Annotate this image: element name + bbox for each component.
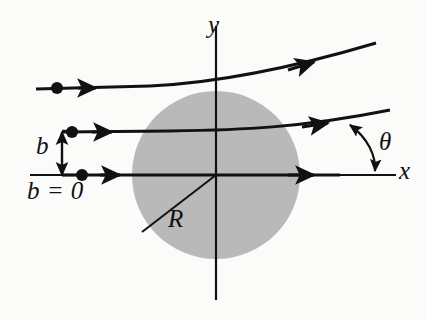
radius-label: R [168,206,183,231]
middle-trajectory-particle [66,126,78,138]
y-axis-label: y [208,12,219,37]
impact-parameter-zero-label: b = 0 [27,178,84,203]
diagram-canvas [0,0,425,320]
impact-parameter-label: b [36,133,49,158]
x-axis-label: x [399,158,410,183]
scattering-angle-arc [350,125,375,171]
scattering-diagram: y x R b b = 0 θ [0,0,425,320]
upper-trajectory-particle [51,82,63,94]
upper-trajectory-path [36,43,376,89]
scattering-angle-label: θ [379,129,391,154]
